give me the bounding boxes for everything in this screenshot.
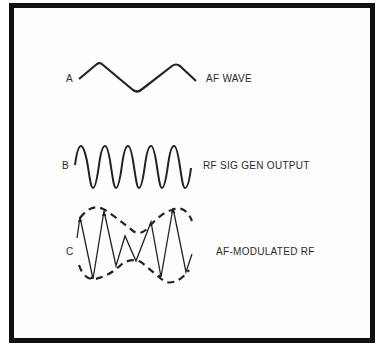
modulated-rf-wave xyxy=(77,208,192,279)
rf-wave xyxy=(75,146,191,188)
waveform-drawing xyxy=(0,0,382,350)
af-wave xyxy=(79,63,196,91)
